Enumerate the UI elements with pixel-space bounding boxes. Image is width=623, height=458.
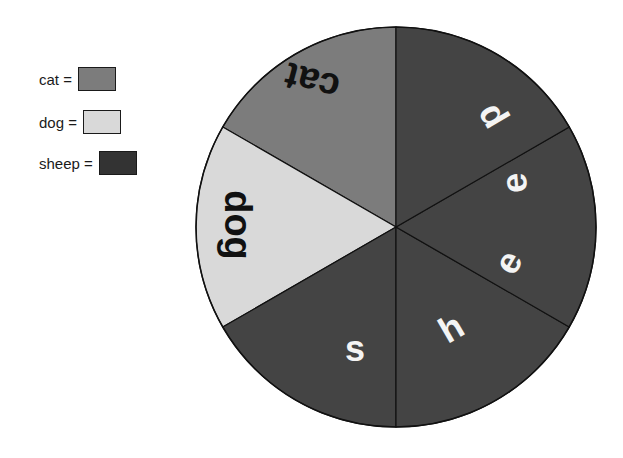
pie-chart: catdogsheep xyxy=(0,0,623,458)
slice-label: s xyxy=(345,328,365,369)
slice-label: dog xyxy=(217,190,259,260)
slice-label: e xyxy=(493,171,536,195)
